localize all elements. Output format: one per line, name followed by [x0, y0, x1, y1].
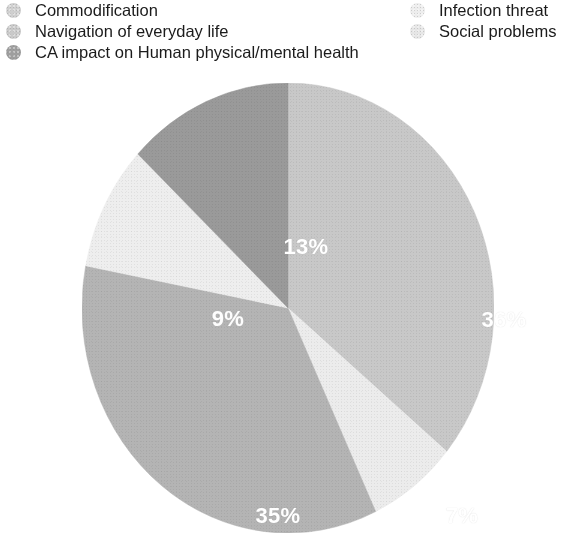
pie-slice-label: 36%: [482, 307, 527, 333]
chart-legend: Commodification Navigation of everyday l…: [0, 0, 569, 74]
legend-swatch-circle-icon: [6, 3, 21, 18]
pie-slice-label: 35%: [256, 503, 301, 529]
legend-item[interactable]: Infection threat: [410, 0, 556, 20]
legend-swatch-circle-icon: [410, 3, 425, 18]
legend-swatch-circle-icon: [6, 45, 21, 60]
legend-swatch-circle-icon: [6, 24, 21, 39]
legend-item[interactable]: Commodification: [6, 0, 359, 20]
legend-item-label: CA impact on Human physical/mental healt…: [35, 42, 359, 62]
legend-swatch-circle-icon: [410, 24, 425, 39]
chart-area: 36%7%35%9%13%: [0, 74, 569, 543]
legend-column-right: Infection threat Social problems: [410, 0, 556, 42]
legend-item-label: Commodification: [35, 0, 158, 20]
legend-item[interactable]: Navigation of everyday life: [6, 21, 359, 41]
legend-item-label: Infection threat: [439, 0, 548, 20]
pie-slice-label: 7%: [446, 503, 478, 529]
pie-chart-svg: [82, 83, 494, 533]
pie-slice-label: 9%: [212, 306, 244, 332]
legend-item-label: Social problems: [439, 21, 556, 41]
legend-column-left: Commodification Navigation of everyday l…: [6, 0, 359, 63]
pie-slice-label: 13%: [284, 234, 329, 260]
legend-item-label: Navigation of everyday life: [35, 21, 229, 41]
legend-item[interactable]: CA impact on Human physical/mental healt…: [6, 42, 359, 62]
legend-item[interactable]: Social problems: [410, 21, 556, 41]
pie-chart: 36%7%35%9%13%: [82, 83, 494, 533]
